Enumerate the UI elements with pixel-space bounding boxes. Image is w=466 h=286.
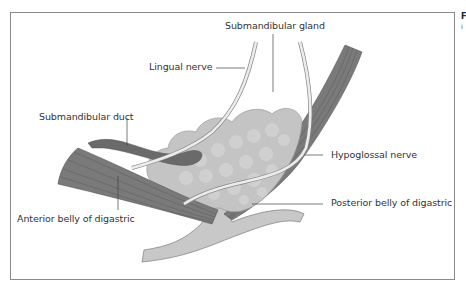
side-caption-fragment: F [461, 12, 466, 21]
anatomy-illustration [0, 0, 466, 286]
label-hypoglossal-nerve: Hypoglossal nerve [331, 149, 417, 160]
label-anterior-belly-of-digastric: Anterior belly of digastric [17, 213, 135, 224]
label-submandibular-gland: Submandibular gland [225, 20, 325, 31]
label-posterior-belly-of-digastric: Posterior belly of digastric [331, 197, 452, 208]
label-lingual-nerve: Lingual nerve [149, 61, 212, 72]
side-caption-fragment-2: i [461, 23, 463, 31]
label-submandibular-duct: Submandibular duct [39, 111, 134, 122]
